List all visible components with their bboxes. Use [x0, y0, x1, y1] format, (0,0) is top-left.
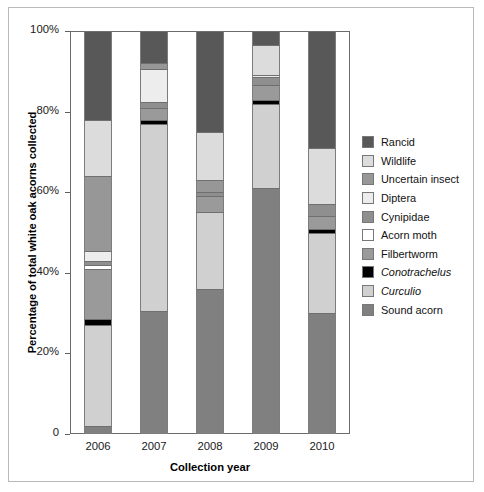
bar-segment[interactable]	[84, 176, 112, 251]
legend-swatch-icon	[362, 229, 374, 241]
legend-item-diptera[interactable]: Diptera	[362, 189, 478, 208]
bar-segment[interactable]	[84, 251, 112, 261]
bar-2007[interactable]	[140, 31, 168, 434]
bar-segment[interactable]	[308, 148, 336, 204]
bar-segment[interactable]	[140, 311, 168, 434]
bar-2006[interactable]	[84, 31, 112, 434]
bar-segment[interactable]	[196, 289, 224, 434]
legend: RancidWildlifeUncertain insectDipteraCyn…	[362, 133, 478, 319]
bar-segment[interactable]	[140, 69, 168, 101]
x-axis-label-2008: 2008	[180, 440, 240, 452]
bar-segment[interactable]	[84, 31, 112, 120]
bar-segment[interactable]	[196, 132, 224, 180]
bar-segment[interactable]	[252, 45, 280, 75]
legend-label: Diptera	[381, 192, 416, 204]
plot-wrapper	[70, 31, 350, 434]
legend-swatch-icon	[362, 248, 374, 260]
legend-label: Curculio	[381, 285, 421, 297]
bar-segment[interactable]	[196, 212, 224, 289]
legend-label: Acorn moth	[381, 229, 437, 241]
y-axis-tick: 80%	[0, 112, 70, 113]
legend-swatch-icon	[362, 173, 374, 185]
bar-segment[interactable]	[84, 269, 112, 319]
y-axis-tick: 100%	[0, 31, 70, 32]
y-axis-tick: 40%	[0, 273, 70, 274]
x-axis-label-2010: 2010	[292, 440, 352, 452]
bar-segment[interactable]	[308, 31, 336, 148]
bar-segment[interactable]	[252, 104, 280, 189]
bar-segment[interactable]	[84, 120, 112, 176]
y-axis-tick-label: 80%	[36, 104, 59, 116]
y-axis-tick-label: 100%	[30, 23, 59, 35]
y-axis-tick-label: 60%	[36, 184, 59, 196]
bar-segment[interactable]	[196, 196, 224, 212]
bar-segment[interactable]	[140, 31, 168, 63]
legend-item-filbertworm[interactable]: Filbertworm	[362, 245, 478, 264]
legend-item-cynipidae[interactable]: Cynipidae	[362, 207, 478, 226]
y-axis-tick: 0	[0, 434, 70, 435]
y-axis-tick-label: 20%	[36, 345, 59, 357]
x-axis-label-2007: 2007	[124, 440, 184, 452]
bar-2009[interactable]	[252, 31, 280, 434]
legend-swatch-icon	[362, 136, 374, 148]
bar-segment[interactable]	[308, 233, 336, 314]
bar-segment[interactable]	[84, 426, 112, 434]
legend-swatch-icon	[362, 192, 374, 204]
legend-label: Conotrachelus	[381, 266, 451, 278]
x-axis-label-2009: 2009	[236, 440, 296, 452]
y-axis-tick: 60%	[0, 192, 70, 193]
legend-label: Filbertworm	[381, 248, 438, 260]
bar-segment[interactable]	[196, 31, 224, 132]
y-axis-tick-label: 40%	[36, 265, 59, 277]
legend-swatch-icon	[362, 266, 374, 278]
bar-segment[interactable]	[252, 77, 280, 85]
bar-segment[interactable]	[140, 108, 168, 120]
bar-segment[interactable]	[308, 216, 336, 228]
legend-label: Cynipidae	[381, 211, 429, 223]
legend-item-conotrachelus[interactable]: Conotrachelus	[362, 263, 478, 282]
bar-2010[interactable]	[308, 31, 336, 434]
x-axis-title: Collection year	[70, 461, 350, 473]
chart-figure: Percentage of total white oak acorns col…	[0, 0, 484, 492]
legend-label: Rancid	[381, 136, 415, 148]
y-axis-tick-mark	[65, 434, 70, 435]
legend-item-sound-acorn[interactable]: Sound acorn	[362, 300, 478, 319]
bar-2008[interactable]	[196, 31, 224, 434]
bar-segment[interactable]	[252, 85, 280, 99]
y-axis-tick: 20%	[0, 353, 70, 354]
legend-item-wildlife[interactable]: Wildlife	[362, 152, 478, 171]
legend-label: Wildlife	[381, 155, 416, 167]
bar-segment[interactable]	[196, 180, 224, 192]
bar-segment[interactable]	[308, 313, 336, 434]
legend-swatch-icon	[362, 155, 374, 167]
bar-segment[interactable]	[84, 325, 112, 426]
bar-segment[interactable]	[140, 124, 168, 311]
bar-segment[interactable]	[252, 188, 280, 434]
x-axis-label-2006: 2006	[68, 440, 128, 452]
y-axis-tick-label: 0	[53, 426, 59, 438]
legend-swatch-icon	[362, 304, 374, 316]
y-axis-title: Percentage of total white oak acorns col…	[21, 31, 43, 434]
bar-segment[interactable]	[252, 31, 280, 45]
legend-item-curculio[interactable]: Curculio	[362, 282, 478, 301]
legend-item-uncertain-insect[interactable]: Uncertain insect	[362, 170, 478, 189]
legend-label: Uncertain insect	[381, 173, 459, 185]
legend-swatch-icon	[362, 211, 374, 223]
legend-item-acorn-moth[interactable]: Acorn moth	[362, 226, 478, 245]
bar-segment[interactable]	[308, 204, 336, 216]
legend-swatch-icon	[362, 285, 374, 297]
legend-item-rancid[interactable]: Rancid	[362, 133, 478, 152]
legend-label: Sound acorn	[381, 304, 443, 316]
